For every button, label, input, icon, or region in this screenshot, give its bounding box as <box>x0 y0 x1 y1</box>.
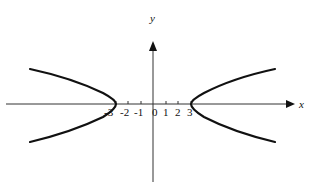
tick-label-neg2: -2 <box>120 106 129 118</box>
y-axis-label: y <box>149 12 155 24</box>
x-tick-labels: -3 -2 -1 0 1 2 3 <box>104 106 193 118</box>
x-axis-label: x <box>298 98 304 110</box>
hyperbola-diagram: x y -3 -2 -1 0 1 2 3 <box>0 0 313 188</box>
tick-label-neg1: -1 <box>134 106 143 118</box>
hyperbola-right-branch <box>191 69 275 142</box>
tick-label-2: 2 <box>175 106 181 118</box>
tick-label-1: 1 <box>163 106 169 118</box>
tick-label-0: 0 <box>152 106 158 118</box>
y-axis-arrow-icon <box>149 41 157 51</box>
x-axis-arrow-icon <box>286 100 295 108</box>
